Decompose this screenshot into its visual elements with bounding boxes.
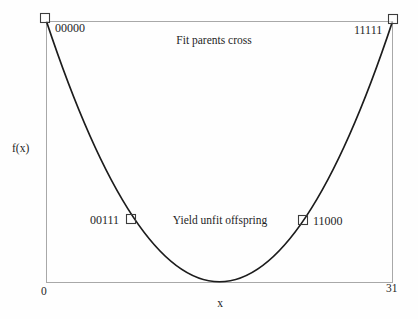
plot-canvas <box>0 0 418 319</box>
x-axis-tick-min: 0 <box>41 285 47 297</box>
annotation-yield-unfit-offspring: Yield unfit offspring <box>173 214 267 226</box>
marker-11111-square <box>389 15 398 24</box>
fitness-curve <box>47 22 393 282</box>
x-axis-label: x <box>217 297 223 309</box>
marker-00000-square <box>41 14 50 23</box>
plot-frame <box>47 22 393 283</box>
x-axis-tick-max: 31 <box>386 282 398 294</box>
label-point-11000: 11000 <box>313 215 343 227</box>
label-point-11111: 11111 <box>354 24 382 36</box>
label-point-00111: 00111 <box>90 214 119 226</box>
fitness-figure: 00000 11111 00111 11000 Fit parents cros… <box>0 0 418 319</box>
annotation-fit-parents-cross: Fit parents cross <box>176 34 251 46</box>
y-axis-label: f(x) <box>12 142 29 154</box>
label-point-00000: 00000 <box>55 22 85 34</box>
